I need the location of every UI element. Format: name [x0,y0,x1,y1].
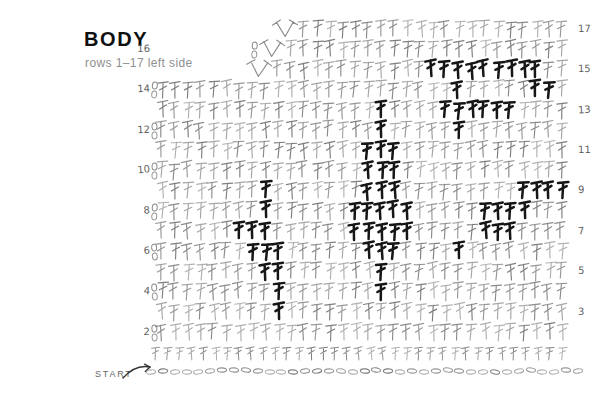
row-number-label: 17 [578,23,594,34]
dc-stitch-icon [450,321,464,341]
dc-stitch-icon [321,179,337,200]
dc-stitch-icon [489,38,504,59]
dc-stitch-icon [321,158,336,179]
row-number-label: 13 [578,103,595,115]
dc-stitch-icon [257,138,272,159]
chain-oval-icon [512,366,525,376]
dc-stitch-icon [411,320,427,341]
row-number-label: 16 [134,43,150,54]
dc-stitch-icon [398,239,413,260]
dc-stitch-icon [464,321,479,342]
bold-dc-stitch-icon [374,281,388,301]
dc-stitch-icon [554,300,570,321]
dc-stitch-icon [373,38,388,59]
row-number-label: 7 [578,224,595,236]
chain-oval-icon [168,367,181,377]
dc-stitch-icon [233,321,248,342]
dc-stitch-icon [296,59,312,80]
dc-stitch-icon [413,345,424,361]
dc-stitch-icon [245,159,260,180]
dc-stitch-icon [245,344,258,361]
dc-stitch-icon [401,17,415,37]
chain-oval-icon [334,366,347,376]
dc-stitch-icon [477,16,492,37]
dc-stitch-icon [244,198,259,219]
bold-dc-stitch-icon [360,158,375,179]
dc-stitch-icon [322,200,337,221]
dc-stitch-icon [555,138,570,159]
dc-stitch-icon [541,97,556,117]
dc-stitch-icon [540,301,555,322]
chain-oval-icon [323,366,335,374]
chain-oval-icon [204,366,217,376]
dc-stitch-icon [258,320,273,341]
dc-stitch-icon [192,300,207,320]
bold-dc-stitch-icon [556,178,571,198]
dc-stitch-icon [296,281,310,301]
dc-stitch-icon [206,138,220,158]
dc-stitch-icon [555,120,570,140]
chain-oval-icon [430,367,442,375]
dc-stitch-icon [373,59,388,80]
dc-stitch-icon [245,120,259,140]
chain-oval-icon [157,367,170,376]
chain-oval-icon [346,367,359,376]
dc-stitch-icon [438,260,452,280]
dc-stitch-icon [390,345,402,361]
chain-oval-icon [406,366,418,375]
dc-stitch-icon [244,300,258,320]
dc-stitch-icon [426,301,441,321]
dc-stitch-icon [411,38,427,59]
dc-stitch-icon [231,279,246,300]
dc-stitch-icon [502,239,518,260]
dc-stitch-icon [295,158,310,179]
dc-stitch-icon [296,180,311,200]
decrease-stitch-icon [270,17,298,39]
dc-stitch-icon [464,38,480,59]
row-number-label: 12 [134,124,150,136]
dc-stitch-icon [540,58,555,79]
dc-stitch-icon [233,345,245,361]
dc-stitch-icon [348,100,362,120]
dc-stitch-icon [270,220,284,240]
dc-stitch-icon [167,261,182,282]
dc-stitch-icon [231,260,246,281]
dc-stitch-icon [554,57,569,78]
chain-oval-icon [418,368,430,376]
row-number-label: 5 [578,265,594,276]
row-number-label: 6 [134,245,150,257]
bold-dc-stitch-icon [347,220,362,240]
dc-stitch-icon [174,345,186,361]
dc-stitch-icon [271,118,286,138]
dc-stitch-icon [515,39,529,59]
dc-stitch-icon [336,118,350,138]
dc-stitch-icon [329,345,340,361]
dc-stitch-icon [425,38,440,59]
dc-stitch-icon [205,320,220,341]
dc-stitch-icon [150,345,161,361]
dc-stitch-icon [437,345,448,361]
dc-stitch-icon [541,158,556,178]
dc-stitch-icon [211,345,223,361]
decrease-stitch-icon [257,36,286,58]
dc-stitch-icon [424,219,438,239]
dc-stitch-icon [296,200,310,220]
dc-stitch-icon [399,118,415,139]
dc-stitch-icon [437,17,452,38]
dc-stitch-icon [399,300,414,321]
dc-stitch-icon [296,299,310,319]
dc-stitch-icon [542,319,557,339]
dc-stitch-icon [335,160,349,180]
dc-stitch-icon [270,200,284,220]
bold-dc-stitch-icon [476,97,491,117]
dc-stitch-icon [529,261,543,281]
dc-stitch-icon [450,159,464,179]
dc-stitch-icon [193,160,208,181]
dc-stitch-icon [373,300,388,321]
dc-stitch-icon [399,280,415,301]
chain-oval-icon [477,367,490,376]
dc-stitch-icon [306,345,318,361]
row-number-label: 9 [578,184,594,195]
dc-stitch-icon [334,302,348,322]
dc-stitch-icon [502,158,516,178]
